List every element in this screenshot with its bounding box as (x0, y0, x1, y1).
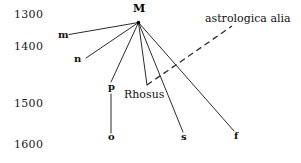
branch-lines (69, 23, 234, 134)
node-label-o: o (108, 131, 115, 142)
year-tick-1600: 1600 (14, 138, 43, 151)
node-label-n: n (74, 53, 82, 64)
annotation-astrologica-alia: astrologica alia (205, 12, 291, 25)
stemma-figure: 1300 1400 1500 1600 M m n p o s f (0, 0, 301, 163)
node-label-p: p (108, 81, 115, 92)
node-label-M: M (133, 2, 145, 15)
branch-astrologica-alia (147, 26, 232, 85)
branch-M-s (139, 23, 184, 133)
branch-M-m (69, 23, 139, 35)
stemma-canvas: 1300 1400 1500 1600 M m n p o s f (0, 0, 301, 163)
node-label-m: m (58, 29, 69, 40)
archetype-node-dot (137, 21, 141, 25)
year-tick-1500: 1500 (14, 97, 43, 110)
annotation-rhosus: Rhosus (124, 88, 165, 101)
year-axis-labels: 1300 1400 1500 1600 (14, 8, 43, 151)
node-label-f: f (234, 130, 239, 141)
branch-M-f (139, 23, 235, 132)
year-tick-1300: 1300 (14, 8, 43, 21)
year-tick-1400: 1400 (14, 40, 43, 53)
node-label-s: s (181, 131, 187, 142)
annotation-labels: Rhosus astrologica alia (124, 12, 291, 101)
